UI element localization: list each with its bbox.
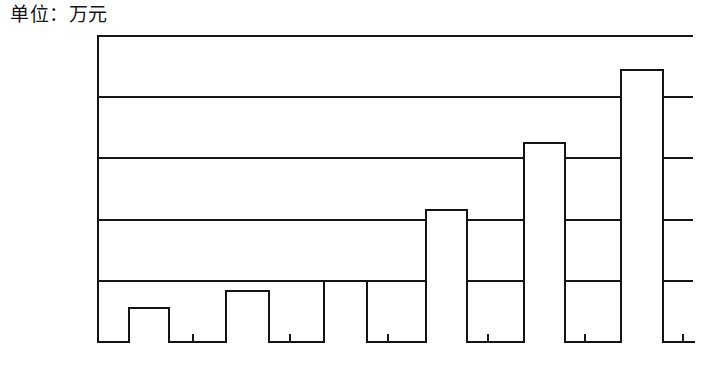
bar-2003: [323, 280, 368, 343]
x-minor-tick: [289, 334, 291, 343]
bar-chart-figure: 单位：万元 05 00010 00015 00020 00025 000 200…: [0, 0, 722, 376]
y-axis-line: [97, 35, 99, 343]
gridline-10000: [97, 219, 693, 221]
x-axis-line: [97, 341, 695, 343]
gridline-15000: [97, 157, 693, 159]
chart-unit-caption: 单位：万元: [10, 2, 108, 28]
bar-2002: [225, 290, 270, 343]
gridline-25000: [97, 35, 693, 37]
bar-2006: [620, 69, 664, 343]
bar-2004: [425, 209, 468, 343]
x-minor-tick: [584, 334, 586, 343]
gridline-5000: [97, 280, 693, 282]
x-minor-tick: [487, 334, 489, 343]
gridline-20000: [97, 96, 693, 98]
bar-2001: [128, 307, 170, 343]
plot-area: 05 00010 00015 00020 00025 000 200120022…: [97, 35, 695, 343]
x-minor-tick: [192, 334, 194, 343]
x-minor-tick: [682, 334, 684, 343]
bar-2005: [523, 142, 566, 344]
x-minor-tick: [387, 334, 389, 343]
